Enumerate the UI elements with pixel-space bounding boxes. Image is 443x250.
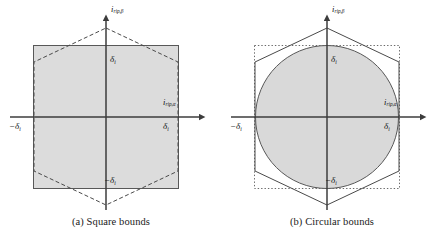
vertical-axis-label: irip,β <box>332 5 344 15</box>
horizontal-axis-label: irip,α <box>163 98 176 108</box>
vertical-axis-label: irip,β <box>111 5 123 15</box>
horizontal-axis-label: irip,α <box>384 98 397 108</box>
bounds-figure: irip,β irip,α δi −δi δi −δi (a) Square b… <box>0 0 443 250</box>
tick-label-right: δi <box>384 122 390 132</box>
tick-label-right: δi <box>163 122 169 132</box>
tick-label-top: δi <box>110 55 116 65</box>
tick-label-left: −δi <box>9 122 21 132</box>
tick-label-top: δi <box>331 55 337 65</box>
panel-b-graphic <box>221 0 443 250</box>
tick-label-bottom: −δi <box>104 176 116 186</box>
panel-b-caption: (b) Circular bounds <box>221 216 443 227</box>
panel-a-caption: (a) Square bounds <box>0 216 222 227</box>
panel-circular-bounds: irip,β irip,α δi −δi δi −δi (b) Circular… <box>221 0 443 250</box>
tick-label-left: −δi <box>230 122 242 132</box>
tick-label-bottom: −δi <box>325 176 337 186</box>
panel-a-graphic <box>0 0 222 250</box>
panel-square-bounds: irip,β irip,α δi −δi δi −δi (a) Square b… <box>0 0 222 250</box>
